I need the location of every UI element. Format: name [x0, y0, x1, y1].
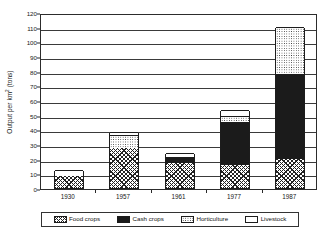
bar-segment-cash-crops [166, 157, 194, 163]
chart-legend: Food cropsCash cropsHorticultureLivestoc… [41, 212, 299, 227]
y-axis-ticks: 0102030405060708090100110120 [16, 14, 40, 190]
x-axis-tick-mark [151, 190, 152, 193]
plot-area [40, 14, 317, 190]
bar-segment-food-crops [110, 148, 138, 188]
x-axis-tick-label: 1930 [61, 194, 75, 200]
x-axis-tick-label: 1987 [282, 194, 296, 200]
y-axis-tick-label: 50 [30, 114, 37, 120]
y-axis-title: Output per km2 (tons) [2, 14, 16, 190]
x-axis-tick-label: 1961 [171, 194, 185, 200]
chart-figure: Output per km2 (tons) 010203040506070809… [0, 0, 329, 241]
x-axis-tick-mark [206, 190, 207, 193]
bar-segment-food-crops [55, 176, 83, 188]
x-axis-tick-mark [262, 190, 263, 193]
y-axis-tick-label: 100 [27, 40, 37, 46]
legend-item-food-crops[interactable]: Food crops [54, 216, 100, 223]
y-axis-tick-label: 110 [27, 26, 37, 32]
stacked-bar [220, 111, 250, 189]
bar-segment-horticulture [221, 116, 249, 122]
y-axis-tick-label: 70 [30, 84, 37, 90]
y-axis-tick-label: 80 [30, 70, 37, 76]
legend-item-livestock[interactable]: Livestock [245, 216, 286, 223]
stacked-bar [54, 171, 84, 189]
stacked-bar [109, 133, 139, 189]
x-axis: 19301957196119771987 [40, 190, 317, 204]
bar-segment-livestock [110, 132, 138, 135]
y-axis-title-suffix: (tons) [6, 70, 13, 89]
stacked-bar [165, 154, 195, 189]
legend-item-horticulture[interactable]: Horticulture [181, 216, 228, 223]
y-axis-tick-label: 120 [27, 11, 37, 17]
bar-segment-food-crops [166, 163, 194, 188]
y-axis-tick-label: 20 [30, 158, 37, 164]
bar-segment-cash-crops [276, 74, 304, 159]
y-axis-title-prefix: Output per km [6, 92, 13, 134]
y-axis-tick-label: 40 [30, 128, 37, 134]
bar-segment-food-crops [221, 165, 249, 188]
y-axis-tick-label: 30 [30, 143, 37, 149]
stacked-bar [275, 28, 305, 189]
legend-swatch-icon [245, 216, 258, 223]
x-axis-tick-mark [95, 190, 96, 193]
x-axis-tick-label: 1957 [116, 194, 130, 200]
bar-segment-livestock [55, 170, 83, 176]
bar-segment-horticulture [110, 135, 138, 148]
bar-segment-livestock [221, 110, 249, 116]
y-axis-tick-label: 60 [30, 99, 37, 105]
legend-swatch-icon [117, 216, 130, 223]
legend-label: Livestock [261, 216, 287, 222]
legend-swatch-icon [54, 216, 67, 223]
legend-label: Horticulture [196, 216, 228, 222]
x-axis-tick-label: 1977 [227, 194, 241, 200]
y-axis-tick-label: 10 [30, 172, 37, 178]
legend-swatch-icon [181, 216, 194, 223]
bar-segment-cash-crops [221, 122, 249, 165]
bar-series-container [41, 15, 316, 189]
legend-item-cash-crops[interactable]: Cash crops [117, 216, 164, 223]
bar-segment-food-crops [276, 159, 304, 188]
bar-segment-livestock [166, 153, 194, 157]
legend-label: Cash crops [133, 216, 164, 222]
y-axis-tick-label: 90 [30, 55, 37, 61]
bar-segment-horticulture [276, 27, 304, 74]
legend-label: Food crops [69, 216, 100, 222]
